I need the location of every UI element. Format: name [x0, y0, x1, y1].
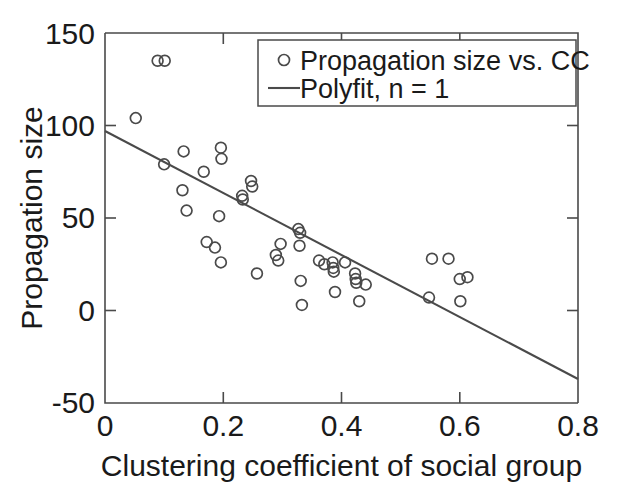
y-axis-title: Propagation size	[15, 106, 48, 329]
legend-label-fit: Polyfit, n = 1	[300, 74, 449, 104]
polyfit-line-layer	[105, 131, 578, 379]
data-point	[340, 257, 351, 268]
data-point	[275, 239, 286, 250]
legend-label-scatter: Propagation size vs. CC	[300, 46, 590, 76]
data-point	[443, 253, 454, 264]
x-ticklabel-0.2: 0.2	[202, 409, 244, 442]
data-point	[178, 146, 189, 157]
x-ticklabel-0: 0	[97, 409, 114, 442]
figure-container: 150 100 50 0 -50 0 0.2 0.4 0.6 0.8 Clust…	[0, 0, 618, 496]
y-ticklabel-0: 0	[78, 294, 95, 327]
data-point	[455, 296, 466, 307]
data-point	[130, 113, 141, 124]
data-point	[216, 153, 227, 164]
data-point	[214, 211, 225, 222]
y-axis-ticks	[105, 126, 578, 311]
legend: Propagation size vs. CC Polyfit, n = 1	[258, 40, 590, 106]
x-ticklabel-0.4: 0.4	[321, 409, 363, 442]
data-point	[215, 257, 226, 268]
data-point	[296, 300, 307, 311]
data-point	[294, 240, 305, 251]
scatter-plot: 150 100 50 0 -50 0 0.2 0.4 0.6 0.8 Clust…	[0, 0, 618, 496]
x-axis-title: Clustering coefficient of social group	[101, 449, 582, 482]
y-ticklabel-50: 50	[62, 201, 95, 234]
data-point	[181, 205, 192, 216]
data-point	[454, 274, 465, 285]
y-ticklabel--50: -50	[52, 386, 95, 419]
data-point	[177, 185, 188, 196]
y-ticklabel-100: 100	[45, 109, 95, 142]
data-point	[295, 276, 306, 287]
data-point	[252, 268, 263, 279]
x-tick-labels: 0 0.2 0.4 0.6 0.8	[97, 409, 599, 442]
y-tick-labels: 150 100 50 0 -50	[45, 17, 95, 419]
data-point	[427, 253, 438, 264]
data-point	[354, 296, 365, 307]
polyfit-line	[105, 131, 578, 379]
data-point	[215, 142, 226, 153]
data-point	[462, 272, 473, 283]
data-point	[198, 166, 209, 177]
data-point	[210, 242, 221, 253]
x-ticklabel-0.6: 0.6	[439, 409, 481, 442]
data-point	[159, 55, 170, 66]
data-point	[330, 287, 341, 298]
x-ticklabel-0.8: 0.8	[557, 409, 599, 442]
y-ticklabel-150: 150	[45, 17, 95, 50]
